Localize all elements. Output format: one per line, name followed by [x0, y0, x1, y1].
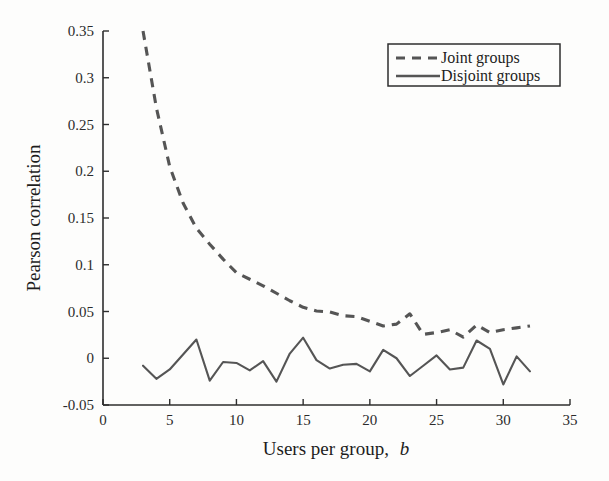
x-tick-labels: 05101520253035 [99, 412, 577, 428]
x-tick-marks [103, 399, 570, 405]
y-tick-label: 0.05 [68, 304, 94, 320]
y-axis-title: Pearson correlation [23, 144, 44, 292]
x-tick-label: 30 [496, 412, 511, 428]
legend-label-joint-groups: Joint groups [441, 49, 520, 67]
x-tick-label: 15 [296, 412, 311, 428]
x-tick-label: 25 [429, 412, 444, 428]
y-tick-label: 0.35 [68, 23, 94, 39]
x-axis-title-text: Users per group, [263, 438, 389, 459]
y-tick-label: 0.3 [75, 70, 94, 86]
chart-figure: 05101520253035 -0.0500.050.10.150.20.250… [0, 0, 609, 481]
pearson-correlation-line-chart: 05101520253035 -0.0500.050.10.150.20.250… [0, 0, 609, 481]
series-line-disjoint-groups [143, 338, 530, 385]
axes-group [103, 31, 570, 405]
legend-label-disjoint-groups: Disjoint groups [441, 67, 540, 85]
figure-page: 05101520253035 -0.0500.050.10.150.20.250… [0, 0, 609, 481]
y-tick-label: 0 [87, 350, 95, 366]
x-tick-label: 20 [362, 412, 377, 428]
y-tick-marks [103, 31, 109, 405]
y-tick-label: 0.15 [68, 210, 94, 226]
x-tick-label: 5 [166, 412, 174, 428]
y-tick-label: 0.25 [68, 117, 94, 133]
y-tick-labels: -0.0500.050.10.150.20.250.30.35 [63, 23, 94, 413]
y-tick-label: -0.05 [63, 397, 94, 413]
x-tick-label: 10 [229, 412, 244, 428]
y-tick-label: 0.1 [75, 257, 94, 273]
y-tick-label: 0.2 [75, 163, 94, 179]
legend: Joint groups Disjoint groups [388, 44, 560, 86]
x-tick-label: 0 [99, 412, 107, 428]
x-tick-label: 35 [563, 412, 578, 428]
x-axis-title-symbol: b [400, 438, 410, 459]
x-axis-title: Users per group, b [263, 438, 409, 459]
